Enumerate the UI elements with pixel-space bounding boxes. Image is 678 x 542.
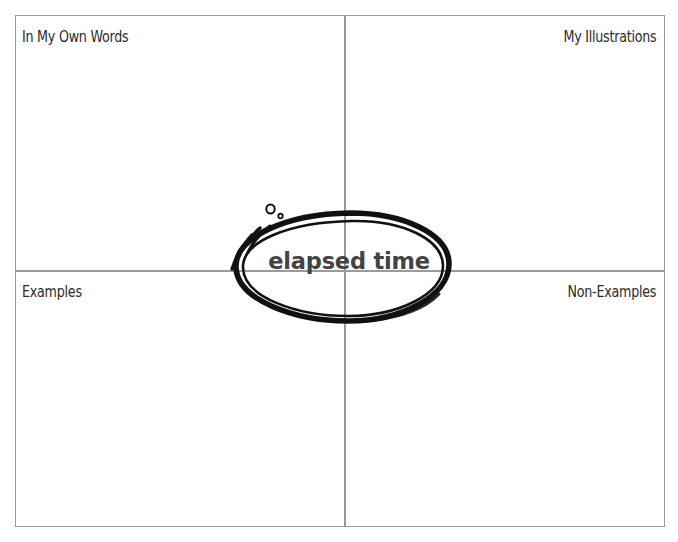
- quadrant-label-examples: Examples: [22, 285, 82, 301]
- frayer-model-organizer: In My Own Words My Illustrations Example…: [0, 0, 678, 542]
- quadrant-label-my-illustrations: My Illustrations: [563, 30, 656, 46]
- concept-term: elapsed time: [222, 188, 462, 333]
- concept-term-label: elapsed time: [268, 248, 430, 274]
- quadrant-label-in-my-own-words: In My Own Words: [22, 30, 128, 46]
- quadrant-label-non-examples: Non-Examples: [567, 285, 656, 301]
